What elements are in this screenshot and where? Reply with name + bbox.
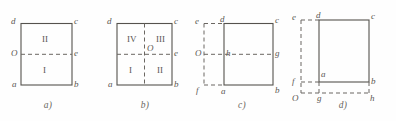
label-axis-top-left: e	[195, 17, 199, 26]
panel-a-caption: a)	[0, 100, 96, 110]
figure-root: d c O e a b II I a) d c O e a b IV III I…	[0, 0, 396, 121]
region-upper-left: IV	[127, 35, 137, 44]
label-square-top-left: d	[220, 15, 225, 24]
panel-a: d c O e a b II I a)	[0, 0, 96, 121]
region-upper: II	[42, 35, 48, 44]
label-origin: O	[147, 44, 154, 53]
label-top-left: d	[11, 17, 16, 26]
panel-c: e d c O h g f a b c)	[194, 0, 290, 121]
label-top-left: d	[107, 17, 112, 26]
panel-b: d c O e a b IV III I II b)	[96, 0, 194, 121]
label-axis-bottom-left: f	[196, 86, 199, 95]
label-right-mid: e	[74, 49, 78, 58]
panel-d: e d c f a b O g h d)	[290, 0, 396, 121]
label-bottom-left: a	[12, 80, 17, 89]
region-lower-left: I	[129, 66, 132, 75]
label-square-left-mid: h	[226, 49, 231, 58]
label-square-bottom-left: a	[221, 87, 226, 96]
label-top-right: c	[275, 16, 279, 25]
label-axis-left-mid: f	[292, 77, 295, 86]
label-square-bottom-left: a	[321, 70, 326, 79]
label-bottom-right: b	[275, 86, 280, 95]
panel-d-caption: d)	[290, 100, 396, 110]
label-square-top-left: d	[316, 11, 321, 20]
label-top-right: c	[74, 17, 78, 26]
label-right-mid: g	[275, 49, 280, 58]
region-upper-right: III	[156, 35, 165, 44]
panel-c-caption: c)	[194, 100, 290, 110]
region-lower-right: II	[157, 66, 163, 75]
label-axis-top-left: e	[292, 13, 296, 22]
label-bottom-right: b	[74, 80, 79, 89]
label-bottom-left: a	[108, 80, 113, 89]
label-right-mid: e	[174, 49, 178, 58]
label-right-mid: b	[371, 77, 376, 86]
region-lower: I	[43, 66, 46, 75]
panel-b-caption: b)	[96, 100, 194, 110]
label-origin: O	[11, 49, 18, 58]
label-top-right: c	[371, 12, 375, 21]
label-bottom-right: b	[174, 80, 179, 89]
square-outline	[319, 20, 369, 82]
label-top-right: c	[174, 17, 178, 26]
label-origin: O	[195, 49, 202, 58]
